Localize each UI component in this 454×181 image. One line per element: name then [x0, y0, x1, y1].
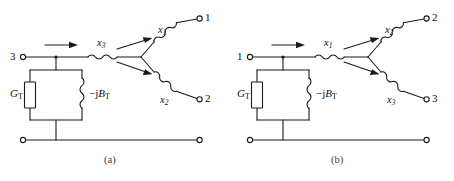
input-terminal-label-b: 1 — [237, 51, 243, 62]
upper-branch-lead-b — [368, 42, 381, 57]
upper-branch-output-wire-b — [403, 19, 424, 23]
conductance-element-a[interactable] — [25, 82, 36, 108]
series-inductor-a[interactable] — [88, 55, 117, 59]
lower-output-terminal-label-a: 2 — [205, 93, 211, 104]
panel-caption-b: (b) — [331, 155, 343, 166]
input-terminal-node-b[interactable] — [247, 54, 252, 59]
figure-root: 3 x3 GT −jBT x1 1 x2 2 (a) — [0, 0, 454, 181]
upper-branch-reactance-label-b: x2 — [385, 25, 393, 37]
susceptance-element-a[interactable] — [80, 78, 84, 108]
panel-caption-a: (a) — [104, 155, 116, 166]
circuit-panel-b: 1 x1 GT −jBT x2 2 x3 3 (b) — [227, 0, 454, 181]
shunt-susceptance-label-b: −jBT — [316, 88, 337, 101]
ground-terminal-left-b[interactable] — [247, 137, 252, 142]
circuit-panel-a: 3 x3 GT −jBT x1 1 x2 2 (a) — [0, 0, 227, 181]
series-reactance-label-b: x1 — [324, 38, 332, 50]
upper-branch-lead-a — [141, 42, 154, 57]
upper-output-terminal-node-a[interactable] — [197, 16, 202, 21]
current-arrow-b — [272, 42, 305, 48]
lower-branch-lead-b — [368, 57, 381, 72]
upper-output-terminal-label-a: 1 — [205, 12, 211, 23]
lower-branch-inductor-a[interactable] — [154, 72, 176, 92]
conductance-element-b[interactable] — [252, 82, 263, 108]
upper-output-terminal-node-b[interactable] — [424, 16, 429, 21]
lower-branch-reactance-label-a: x2 — [160, 95, 168, 107]
current-arrow-a — [45, 42, 78, 48]
lower-output-terminal-label-b: 3 — [432, 93, 438, 104]
branch-junction-b — [344, 37, 380, 75]
ground-terminal-right-a[interactable] — [197, 137, 202, 142]
shunt-conductance-label-a: GT — [10, 88, 23, 101]
susceptance-element-b[interactable] — [307, 78, 311, 108]
ground-terminal-right-b[interactable] — [424, 137, 429, 142]
upper-output-terminal-label-b: 2 — [432, 12, 438, 23]
lower-branch-reactance-label-b: x3 — [387, 95, 395, 107]
input-terminal-node-a[interactable] — [20, 54, 25, 59]
ground-terminal-left-a[interactable] — [20, 137, 25, 142]
lower-branch-output-wire-a — [176, 91, 197, 98]
branch-junction-a — [117, 37, 153, 75]
series-reactance-label-a: x3 — [97, 38, 105, 50]
lower-branch-lead-a — [141, 57, 154, 72]
lower-branch-output-wire-b — [403, 91, 424, 98]
upper-branch-output-wire-a — [176, 19, 197, 23]
lower-branch-inductor-b[interactable] — [381, 72, 403, 92]
input-terminal-label-a: 3 — [10, 51, 16, 62]
upper-branch-reactance-label-a: x1 — [158, 25, 166, 37]
series-inductor-b[interactable] — [315, 55, 344, 59]
shunt-susceptance-label-a: −jBT — [89, 88, 110, 101]
lower-output-terminal-node-a[interactable] — [197, 97, 202, 102]
lower-output-terminal-node-b[interactable] — [424, 97, 429, 102]
shunt-conductance-label-b: GT — [237, 88, 250, 101]
